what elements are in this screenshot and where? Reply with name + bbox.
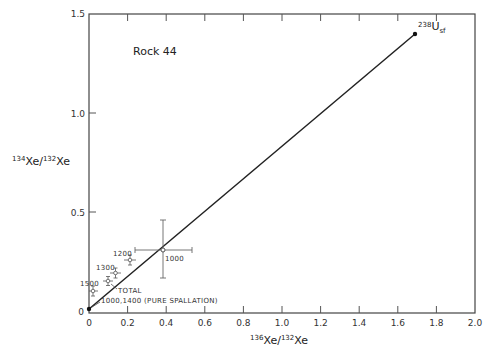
- y-tick-1.0: 1.0: [71, 109, 86, 119]
- label-pure-spallation: 1000,1400 (PURE SPALLATION): [101, 297, 218, 305]
- label-238usf: 238Usf: [418, 20, 446, 35]
- chart-title: Rock 44: [133, 45, 177, 58]
- y-tick-labels: 0 0.5 1.0 1.5: [71, 9, 86, 317]
- x-tick-0.4: 0.4: [159, 318, 174, 328]
- x-axis-ticks: [128, 306, 437, 313]
- top-axis-ticks: [128, 14, 437, 21]
- point-pure-spallation: [87, 307, 91, 311]
- y-tick-0.5: 0.5: [71, 208, 85, 218]
- x-tick-1.6: 1.6: [391, 318, 406, 328]
- label-1000: 1000: [165, 255, 184, 263]
- label-1300: 1300: [96, 264, 115, 272]
- chart-canvas: 0 0.2 0.4 0.6 0.8 1.0 1.2 1.4 1.6 1.8 2.…: [0, 0, 488, 358]
- point-238usf: [413, 32, 417, 36]
- x-tick-0.8: 0.8: [236, 318, 251, 328]
- x-tick-1.8: 1.8: [429, 318, 444, 328]
- x-tick-0.2: 0.2: [120, 318, 134, 328]
- y-tick-0: 0: [78, 307, 84, 317]
- plot-frame: [89, 14, 475, 313]
- x-tick-0.6: 0.6: [198, 318, 213, 328]
- label-1500: 1500: [80, 280, 99, 288]
- x-tick-0: 0: [86, 318, 92, 328]
- y-axis-label: 134Xe/132Xe: [12, 155, 70, 168]
- x-tick-1.4: 1.4: [352, 318, 367, 328]
- x-tick-1.0: 1.0: [275, 318, 290, 328]
- label-1200: 1200: [113, 250, 132, 258]
- x-tick-2.0: 2.0: [468, 318, 483, 328]
- x-tick-1.2: 1.2: [313, 318, 327, 328]
- label-total: TOTAL: [117, 287, 142, 295]
- x-tick-labels: 0 0.2 0.4 0.6 0.8 1.0 1.2 1.4 1.6 1.8 2.…: [86, 318, 482, 328]
- y-axis-ticks: [89, 113, 96, 212]
- mixing-line: [89, 34, 415, 309]
- x-axis-label: 136Xe/132Xe: [250, 334, 308, 347]
- y-tick-1.5: 1.5: [71, 9, 85, 19]
